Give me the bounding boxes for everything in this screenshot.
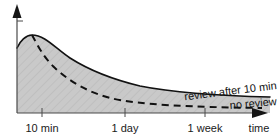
chart-canvas: 10 min 1 day 1 week time review after 10… xyxy=(0,0,279,138)
x-tick-label-1-day: 1 day xyxy=(112,122,139,134)
x-tick-label-1-week: 1 week xyxy=(188,122,223,134)
y-axis-arrowhead xyxy=(13,4,22,18)
x-tick-label-10-min: 10 min xyxy=(25,122,58,134)
x-axis-title: time xyxy=(249,122,270,134)
forgetting-curve-figure: 10 min 1 day 1 week time review after 10… xyxy=(0,0,279,138)
